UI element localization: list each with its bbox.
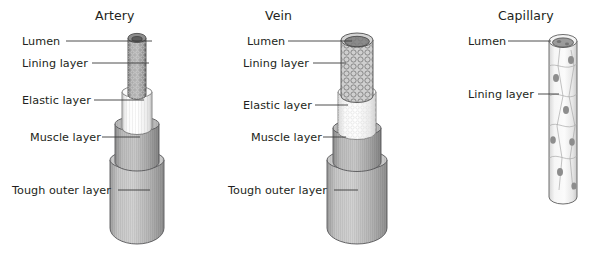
vein-label-tough-outer: Tough outer layer (228, 184, 327, 197)
vessel-illustrations (0, 0, 598, 258)
vein-label-lumen: Lumen (247, 35, 285, 48)
panel-title-vein: Vein (265, 8, 292, 23)
capillary-label-lumen: Lumen (468, 35, 506, 48)
artery-label-lining: Lining layer (22, 57, 88, 70)
diagram-canvas: Artery Vein Capillary Lumen Lining layer… (0, 0, 598, 258)
vein-illustration (327, 33, 387, 244)
capillary-label-lining: Lining layer (468, 88, 534, 101)
vein-lining-layer (341, 40, 373, 103)
artery-label-tough-outer: Tough outer layer (12, 184, 111, 197)
artery-label-lumen: Lumen (22, 35, 60, 48)
capillary-illustration (549, 35, 577, 205)
artery-label-elastic: Elastic layer (22, 94, 91, 107)
vein-label-lining: Lining layer (243, 57, 309, 70)
vein-lumen (341, 33, 373, 47)
capillary-lumen (549, 35, 577, 48)
artery-label-muscle: Muscle layer (30, 131, 101, 144)
capillary-lining-layer (549, 41, 577, 204)
artery-lining-layer (128, 38, 146, 99)
artery-illustration (110, 33, 164, 244)
panel-title-capillary: Capillary (498, 8, 554, 23)
vein-label-muscle: Muscle layer (251, 131, 322, 144)
vein-label-elastic: Elastic layer (243, 99, 312, 112)
panel-title-artery: Artery (95, 8, 134, 23)
